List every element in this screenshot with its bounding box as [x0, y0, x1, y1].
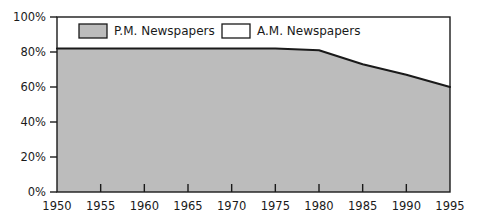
x-axis-tick-label: 1965 — [173, 199, 202, 213]
y-axis-tick-label: 100% — [13, 10, 46, 24]
y-axis: 0%20%40%60%80%100% — [13, 10, 57, 199]
y-axis-tick-label: 40% — [20, 115, 46, 129]
x-axis-tick-label: 1975 — [261, 199, 290, 213]
x-axis-tick-label: 1985 — [348, 199, 377, 213]
legend-swatch-pm-newspapers — [79, 24, 107, 38]
x-axis-tick-label: 1980 — [304, 199, 333, 213]
legend-label-am-newspapers: A.M. Newspapers — [257, 24, 360, 38]
y-axis-tick-label: 60% — [20, 80, 46, 94]
legend-swatch-am-newspapers — [222, 24, 250, 38]
x-axis-tick-label: 1955 — [86, 199, 115, 213]
x-axis-tick-label: 1970 — [217, 199, 246, 213]
newspaper-share-area-chart: 0%20%40%60%80%100% 195019551960196519701… — [0, 0, 480, 224]
y-axis-tick-label: 20% — [20, 150, 46, 164]
x-axis-tick-label: 1995 — [435, 199, 464, 213]
x-axis-tick-label: 1990 — [392, 199, 421, 213]
y-axis-tick-label: 80% — [20, 45, 46, 59]
x-axis-tick-label: 1950 — [42, 199, 71, 213]
y-axis-tick-label: 0% — [28, 185, 46, 199]
legend-label-pm-newspapers: P.M. Newspapers — [114, 24, 215, 38]
x-axis-tick-label: 1960 — [130, 199, 159, 213]
chart-container: 0%20%40%60%80%100% 195019551960196519701… — [0, 0, 480, 224]
